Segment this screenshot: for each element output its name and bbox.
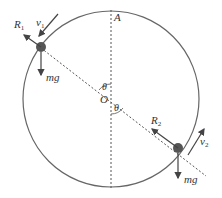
label-O: O xyxy=(100,94,108,105)
label-mg1: mg xyxy=(46,72,59,83)
label-R1: R1 xyxy=(14,19,24,32)
R2-arrow xyxy=(152,129,178,148)
circular-motion-diagram xyxy=(0,0,222,198)
v2-subscript: 2 xyxy=(205,141,209,149)
R1-arrow xyxy=(24,35,41,47)
label-theta-upper: θ xyxy=(102,82,107,92)
R2-subscript: 2 xyxy=(158,120,162,128)
R2-text: R xyxy=(151,114,158,126)
label-v1: v1 xyxy=(36,17,44,30)
label-A: A xyxy=(114,12,121,23)
v1-subscript: 1 xyxy=(41,22,45,30)
label-mg2: mg xyxy=(184,174,197,185)
label-theta-lower: θ xyxy=(114,103,119,113)
label-R2: R2 xyxy=(151,115,161,128)
radius-line xyxy=(41,48,206,176)
R1-text: R xyxy=(14,18,21,30)
R1-subscript: 1 xyxy=(21,24,25,32)
label-v2: v2 xyxy=(200,136,208,149)
